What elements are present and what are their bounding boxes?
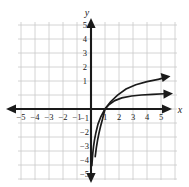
y-tick-label: −4 [80,155,90,165]
grid-lines [18,22,177,180]
x-axis-left-arrowhead [6,104,16,113]
x-tick-label: 2 [117,112,121,122]
y-axis-label: y [84,7,90,18]
lower-curve-arrowhead [163,90,173,99]
y-tick-label: −3 [80,141,89,151]
x-tick-label: −3 [44,112,53,122]
x-axis-tick-labels: −5 −4 −3 −2 −1 1 2 3 4 5 [16,112,163,122]
x-tick-label: −5 [16,112,25,122]
coordinate-plane: −5 −4 −3 −2 −1 1 2 3 4 5 5 4 3 2 1 −1 −2… [0,0,189,187]
y-tick-label: −2 [80,127,89,137]
log-graph-figure: −5 −4 −3 −2 −1 1 2 3 4 5 5 4 3 2 1 −1 −2… [0,0,189,187]
x-axis-right-arrowhead [162,104,172,113]
x-tick-label: 4 [145,112,150,122]
y-axis-tick-labels: 5 4 3 2 1 −1 −2 −3 −4 −5 [80,20,90,179]
x-tick-label: 3 [131,112,135,122]
lower-curve [95,94,166,157]
y-tick-label: 1 [83,76,87,86]
y-tick-label: 5 [83,20,87,30]
x-axis-label: x [177,104,183,115]
x-tick-label: −4 [30,112,40,122]
y-tick-label: 3 [83,48,87,58]
y-tick-label: 2 [83,62,87,72]
y-tick-label: −5 [80,169,89,179]
x-tick-label: −2 [58,112,67,122]
x-tick-label: 5 [159,112,163,122]
y-tick-label: −1 [80,113,89,123]
y-axis-top-arrowhead [86,18,95,28]
